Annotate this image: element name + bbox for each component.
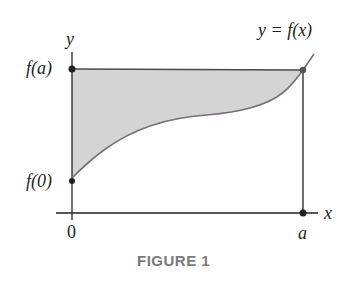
curve-label-text: y = f(x) xyxy=(256,20,312,41)
f-a-label: f(a) xyxy=(26,58,52,79)
f-a-point xyxy=(69,66,76,73)
f-0-label: f(0) xyxy=(26,171,52,192)
curve-end-point xyxy=(300,67,306,73)
shaded-region xyxy=(72,69,303,178)
f-0-point xyxy=(69,178,75,184)
a-point xyxy=(300,210,307,217)
figure-caption: FIGURE 1 xyxy=(137,252,210,269)
x-axis-label: x xyxy=(323,203,332,223)
curve-label: y = f(x) xyxy=(256,20,312,41)
figure-diagram: y y = f(x) f(a) f(0) x 0 a FIGURE 1 xyxy=(0,0,355,285)
y-axis-label: y xyxy=(64,29,74,49)
a-label: a xyxy=(298,223,307,243)
origin-label: 0 xyxy=(67,222,76,242)
